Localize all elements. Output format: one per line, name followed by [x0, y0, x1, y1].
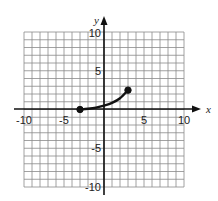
y-tick-label: -10: [85, 181, 101, 193]
y-tick-label: 5: [95, 65, 101, 77]
coordinate-plane: -10 -5 5 10 10 5 -5 -10 x y: [0, 0, 218, 201]
y-tick-label: -5: [91, 142, 101, 154]
endpoint-dot: [125, 87, 131, 93]
y-axis-arrow-icon: [101, 16, 108, 25]
x-tick-label: 5: [141, 114, 147, 126]
x-tick-label: -10: [16, 114, 32, 126]
x-axis-arrow-icon: [192, 106, 201, 113]
y-tick-label: 10: [89, 27, 101, 39]
x-tick-label: -5: [59, 114, 69, 126]
x-tick-label: 10: [178, 114, 190, 126]
x-axis-label: x: [205, 103, 211, 115]
endpoint-dot: [77, 106, 83, 112]
y-axis-label: y: [93, 14, 99, 26]
